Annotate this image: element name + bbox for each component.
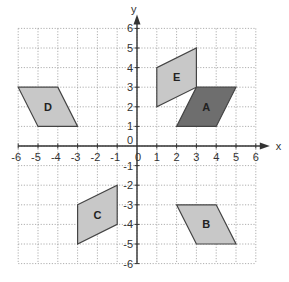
y-tick-label: -5 (123, 238, 133, 250)
origin-label-y: 0 (127, 134, 133, 146)
x-tick-label: 5 (233, 151, 239, 163)
tick-labels: xy-6-5-4-3-2-112345600-6-5-4-3-2-1123456 (11, 3, 281, 269)
y-tick-label: 4 (127, 62, 133, 74)
x-tick-label: 2 (174, 151, 180, 163)
y-tick-label: -3 (123, 199, 133, 211)
x-axis-arrow-icon (260, 143, 270, 150)
y-tick-label: 3 (127, 81, 133, 93)
y-tick-label: 1 (127, 120, 133, 132)
coordinate-grid-svg: ABCDE xy-6-5-4-3-2-112345600-6-5-4-3-2-1… (0, 0, 289, 282)
x-axis-label: x (276, 140, 282, 152)
shape-label-e: E (173, 71, 180, 83)
shape-label-a: A (202, 101, 210, 113)
y-tick-label: 5 (127, 42, 133, 54)
y-tick-label: -4 (123, 218, 133, 230)
y-axis-arrow-icon (134, 14, 141, 24)
x-tick-label: 6 (253, 151, 259, 163)
y-tick-label: 6 (127, 22, 133, 34)
coordinate-plane: ABCDE xy-6-5-4-3-2-112345600-6-5-4-3-2-1… (0, 0, 289, 282)
x-tick-label: 4 (213, 151, 219, 163)
x-tick-label: -4 (51, 151, 61, 163)
x-tick-label: -6 (11, 151, 21, 163)
x-tick-label: 1 (154, 151, 160, 163)
axes (18, 14, 270, 263)
shape-label-d: D (44, 101, 52, 113)
shape-label-c: C (93, 209, 101, 221)
x-tick-label: -3 (71, 151, 81, 163)
y-tick-label: -2 (123, 179, 133, 191)
y-tick-label: -1 (123, 160, 133, 172)
y-axis-label: y (131, 3, 137, 15)
x-tick-label: -1 (110, 151, 120, 163)
x-tick-label: 3 (193, 151, 199, 163)
shape-label-b: B (202, 218, 210, 230)
y-tick-label: -6 (123, 258, 133, 270)
x-tick-label: -2 (91, 151, 101, 163)
x-tick-label: -5 (31, 151, 41, 163)
y-tick-label: 2 (127, 101, 133, 113)
origin-label-x: 0 (135, 151, 141, 163)
